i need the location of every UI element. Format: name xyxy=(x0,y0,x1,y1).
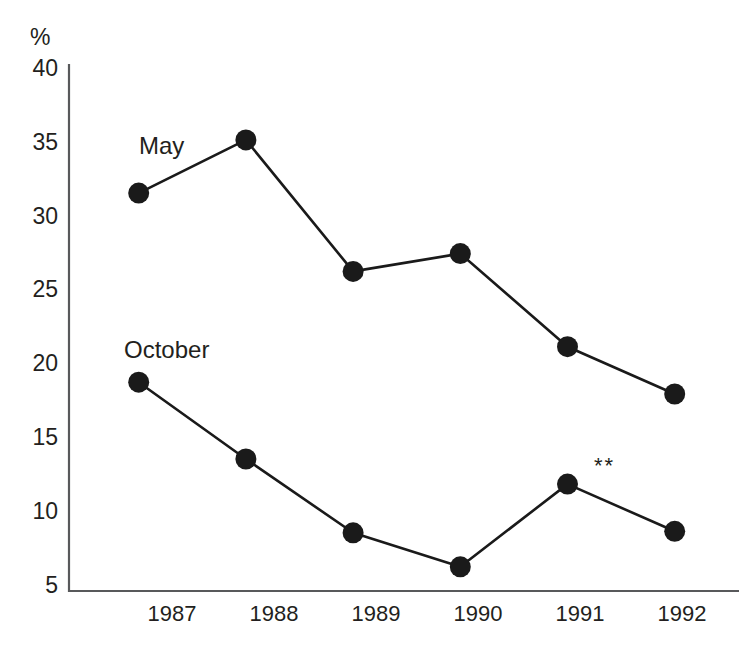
series-line-october xyxy=(139,382,675,567)
data-point xyxy=(128,183,149,204)
data-point xyxy=(343,261,364,282)
data-point xyxy=(343,522,364,543)
data-point xyxy=(235,449,256,470)
series-line-may xyxy=(139,140,675,394)
data-point xyxy=(235,129,256,150)
data-point xyxy=(664,384,685,405)
data-point xyxy=(664,521,685,542)
data-point xyxy=(450,556,471,577)
series-may xyxy=(128,129,685,404)
axis-lines xyxy=(69,64,739,592)
series-october xyxy=(128,372,685,578)
chart-figure: % 40 35 30 25 20 15 10 5 1987 1988 1989 … xyxy=(0,0,746,648)
series-layer xyxy=(128,129,685,577)
data-point xyxy=(557,474,578,495)
data-point xyxy=(557,336,578,357)
plot-area xyxy=(0,0,746,648)
data-point xyxy=(128,372,149,393)
data-point xyxy=(450,243,471,264)
